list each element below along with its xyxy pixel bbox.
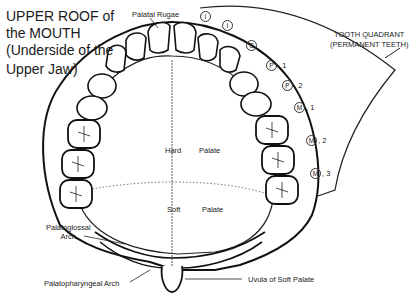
label-hard: Hard [165, 146, 181, 155]
diagram-title: UPPER ROOF of the MOUTH (Underside of th… [6, 8, 114, 78]
tooth-premolar-2-left [77, 96, 107, 120]
tooth-label-premolar-1: P , 1 [266, 60, 286, 71]
tooth-label-canine: C [246, 40, 258, 51]
title-line-2: the MOUTH [6, 25, 114, 42]
uvula [162, 266, 183, 292]
tooth-symbol: P [266, 60, 277, 71]
tooth-central-incisor-right [174, 23, 196, 53]
palatoglossal-line-2: Arch [46, 232, 91, 241]
tooth-label-incisor-lateral: I [222, 20, 234, 31]
tooth-suffix: , 2 [294, 81, 302, 90]
label-soft: Soft [167, 205, 180, 214]
label-palatal-rugae: Palatal Rugae [132, 10, 179, 19]
label-hard-palate: Palate [199, 146, 220, 155]
palatoglossal-line-1: Palatoglossal [46, 223, 91, 232]
tooth-label-premolar-2: P , 2 [282, 80, 302, 91]
tooth-symbol: M [306, 135, 317, 146]
title-line-3: (Underside of the [6, 42, 114, 59]
label-palatoglossal-arch: Palatoglossal Arch [46, 223, 91, 241]
tooth-suffix: , 2 [318, 136, 326, 145]
tooth-symbol: M [310, 168, 321, 179]
label-palatopharyngeal-arch: Palatopharyngeal Arch [44, 279, 119, 288]
label-soft-palate: Palate [202, 205, 223, 214]
tooth-suffix: , 3 [322, 169, 330, 178]
tooth-quadrant-line-1: TOOTH QUADRANT [330, 30, 408, 40]
tooth-label-molar-3: M , 3 [310, 168, 330, 179]
tooth-label-molar-1: M , 1 [294, 102, 314, 113]
title-line-1: UPPER ROOF of [6, 8, 114, 25]
tooth-canine-right [220, 47, 240, 72]
tooth-symbol: I [222, 20, 233, 31]
tooth-lateral-incisor-right [198, 34, 218, 61]
tooth-label-molar-2: M , 2 [306, 135, 326, 146]
tooth-central-incisor-left [148, 23, 170, 53]
tooth-suffix: , 1 [278, 61, 286, 70]
tooth-premolar-2-right [241, 92, 271, 116]
tooth-symbol: P [282, 80, 293, 91]
tooth-lateral-incisor-left [126, 33, 146, 60]
tooth-symbol: C [246, 40, 257, 51]
label-uvula: Uvula of Soft Palate [248, 275, 314, 284]
label-tooth-quadrant: TOOTH QUADRANT (PERMANENT TEETH) [330, 30, 408, 49]
tooth-symbol: I [200, 11, 211, 22]
leader-palatopharyngeal [130, 270, 150, 282]
tooth-label-incisor-central: I [200, 11, 212, 22]
tooth-symbol: M [294, 102, 305, 113]
tooth-suffix: , 1 [306, 103, 314, 112]
tooth-quadrant-line-2: (PERMANENT TEETH) [330, 40, 408, 50]
quadrant-pointer [385, 48, 400, 58]
title-line-4: Upper Jaw) [6, 61, 114, 78]
